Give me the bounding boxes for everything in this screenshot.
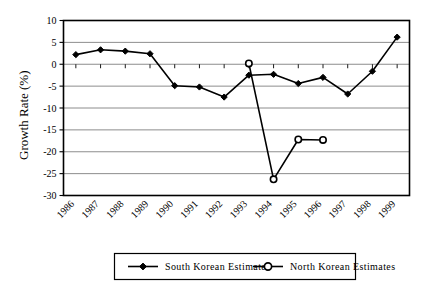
y-tick-label: -20 — [43, 146, 56, 157]
data-point-marker — [320, 137, 326, 143]
y-tick-label: -15 — [43, 124, 56, 135]
data-point-marker — [295, 136, 301, 142]
data-point-marker — [270, 176, 276, 182]
legend-label: North Korean Estimates — [290, 261, 395, 272]
chart-figure: Growth Rate (%) 1050-5-10-15-20-25-30 19… — [0, 0, 421, 295]
y-axis-title-text: Growth Rate (%) — [16, 70, 31, 160]
y-tick-label: -10 — [43, 103, 56, 114]
legend-marker-open-circle-icon — [264, 263, 271, 270]
y-axis-title: Growth Rate (%) — [16, 70, 31, 160]
y-tick-label: 0 — [52, 59, 57, 70]
growth-rate-line-chart: Growth Rate (%) 1050-5-10-15-20-25-30 19… — [0, 0, 421, 295]
legend-entries: South Korean EstimatesNorth Korean Estim… — [128, 261, 395, 272]
y-tick-label: -30 — [43, 190, 56, 201]
y-tick-label: -25 — [43, 168, 56, 179]
y-tick-label: 10 — [47, 15, 57, 26]
data-point-marker — [246, 60, 252, 66]
y-tick-label: -5 — [48, 81, 56, 92]
y-tick-label: 5 — [52, 37, 57, 48]
